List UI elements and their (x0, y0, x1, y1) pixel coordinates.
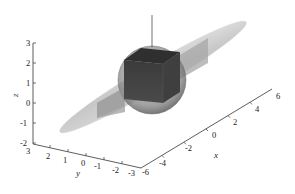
x-tick-neg4: -4 (159, 158, 167, 168)
y-tick-neg1: -1 (94, 161, 101, 171)
x-tick-neg6: -6 (142, 167, 149, 177)
z-tick-3: 3 (26, 38, 30, 48)
z-axis-label: z (10, 93, 20, 98)
z-tick-1: 1 (26, 78, 30, 88)
3d-plot: 3 2 1 0 -1 -2 z 3 2 1 0 -1 -2 -3 y -6 -4… (0, 0, 295, 194)
y-axis-label: y (75, 168, 80, 178)
cube (124, 48, 180, 103)
y-axis: 3 2 1 0 -1 -2 -3 y (26, 144, 141, 178)
x-tick-6: 6 (276, 91, 280, 101)
y-tick-neg3: -3 (128, 168, 135, 178)
x-tick-neg2: -2 (185, 143, 192, 153)
y-tick-1: 1 (63, 155, 67, 165)
y-tick-3: 3 (26, 146, 30, 156)
z-tick-2: 2 (26, 58, 30, 68)
z-tick-neg1: -1 (20, 118, 27, 128)
y-tick-neg2: -2 (112, 165, 119, 175)
x-tick-4: 4 (255, 104, 260, 114)
y-tick-2: 2 (46, 151, 50, 161)
z-tick-0: 0 (26, 98, 30, 108)
y-tick-0: 0 (81, 158, 85, 168)
z-axis: 3 2 1 0 -1 -2 z (10, 38, 36, 148)
x-axis-label: x (213, 150, 218, 160)
x-tick-0: 0 (212, 130, 216, 140)
x-tick-2: 2 (233, 117, 237, 127)
